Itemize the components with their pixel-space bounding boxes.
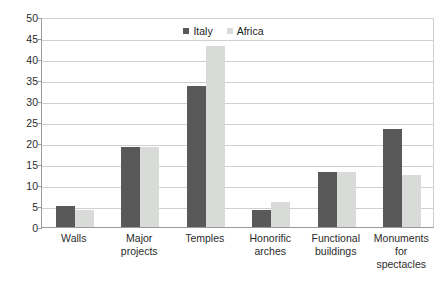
x-axis-tick-label: Walls (43, 232, 105, 245)
x-axis-tick-label: Major projects (109, 232, 171, 258)
x-axis-tick-label: Temples (174, 232, 236, 245)
bar (337, 172, 356, 227)
y-axis-tick-label: 5 (4, 202, 38, 212)
gridline (42, 124, 433, 125)
bar (140, 147, 159, 227)
gridline (42, 82, 433, 83)
bar (252, 210, 271, 227)
bar-group (252, 19, 290, 227)
bar-group (383, 19, 421, 227)
y-axis: 05101520253035404550 (0, 18, 38, 229)
gridline (42, 61, 433, 62)
x-axis-tick-label: Functional buildings (305, 232, 367, 258)
x-axis-tick-label: Monuments for spectacles (371, 232, 433, 271)
y-axis-tick-label: 50 (4, 13, 38, 23)
y-axis-tick-label: 0 (4, 223, 38, 233)
bar (206, 46, 225, 227)
bar (318, 172, 337, 227)
gridline (42, 103, 433, 104)
y-axis-tick-label: 30 (4, 97, 38, 107)
y-axis-tick-label: 35 (4, 76, 38, 86)
bar (56, 206, 75, 227)
gridline (42, 208, 433, 209)
x-axis-labels: WallsMajor projectsTemplesHonorific arch… (41, 232, 434, 278)
plot-area (41, 18, 434, 228)
y-axis-tick-label: 15 (4, 160, 38, 170)
gridline (42, 166, 433, 167)
bar (75, 210, 94, 227)
bar-group (187, 19, 225, 227)
bar-group (121, 19, 159, 227)
bar-group (318, 19, 356, 227)
bar (271, 202, 290, 227)
bar (121, 147, 140, 227)
bar (383, 129, 402, 227)
y-axis-tick-label: 40 (4, 55, 38, 65)
gridline (42, 40, 433, 41)
x-axis-tick-label: Honorific arches (240, 232, 302, 258)
y-axis-tick-label: 20 (4, 139, 38, 149)
y-axis-tick-mark (38, 228, 42, 229)
bar-group (56, 19, 94, 227)
gridline (42, 145, 433, 146)
y-axis-tick-label: 25 (4, 118, 38, 128)
bar (187, 86, 206, 227)
y-axis-tick-label: 10 (4, 181, 38, 191)
bar (402, 175, 421, 228)
gridline (42, 187, 433, 188)
y-axis-tick-label: 45 (4, 34, 38, 44)
bar-chart: 05101520253035404550 WallsMajor projects… (0, 0, 447, 282)
